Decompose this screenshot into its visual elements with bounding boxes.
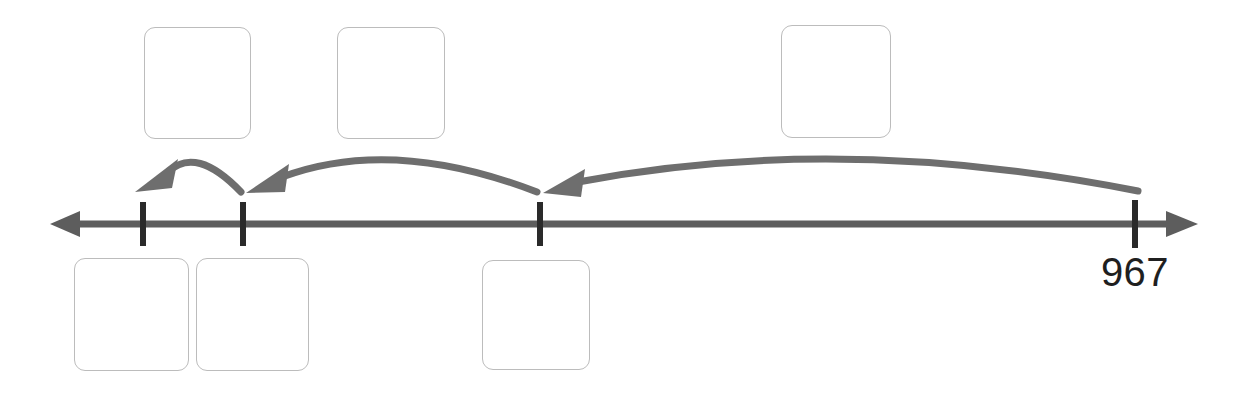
jump-arc-long-arrowhead	[543, 169, 585, 197]
answer-box-below-1[interactable]	[74, 258, 189, 371]
jump-arc-short-arrowhead	[135, 159, 178, 192]
number-line	[50, 211, 1198, 237]
tick-label-967: 967	[1065, 252, 1205, 292]
number-line-diagram: 967	[0, 0, 1248, 393]
jump-arc-short	[168, 162, 241, 192]
jump-arc-middle	[282, 160, 537, 192]
answer-box-above-2[interactable]	[337, 27, 445, 139]
answer-box-below-2[interactable]	[196, 258, 309, 371]
jump-arc-long	[578, 159, 1138, 191]
jump-arcs	[135, 159, 1138, 197]
answer-box-above-3[interactable]	[781, 25, 891, 138]
answer-box-below-3[interactable]	[482, 260, 590, 370]
number-line-right-arrowhead	[1166, 211, 1198, 237]
answer-box-above-1[interactable]	[144, 27, 251, 139]
number-line-left-arrowhead	[50, 211, 80, 237]
jump-arc-middle-arrowhead	[246, 164, 289, 193]
